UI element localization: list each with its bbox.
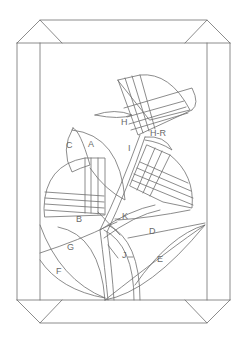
label-g: G (67, 242, 74, 252)
label-f: F (56, 266, 62, 276)
top-flower (95, 75, 196, 150)
right-flower (130, 145, 193, 208)
label-h-r: H-R (150, 128, 166, 138)
label-e: E (157, 254, 163, 264)
frame (17, 20, 230, 323)
label-b: B (76, 214, 82, 224)
label-i: I (128, 143, 131, 153)
label-d: D (149, 226, 156, 236)
stems (98, 135, 160, 300)
label-k: K (122, 211, 128, 221)
label-j: J (122, 250, 127, 260)
stained-glass-diagram: A B C D E F G H H-R I J K (0, 0, 245, 340)
label-h: H (121, 117, 128, 127)
label-a: A (88, 139, 94, 149)
left-flower (44, 158, 105, 217)
label-c: C (66, 140, 73, 150)
